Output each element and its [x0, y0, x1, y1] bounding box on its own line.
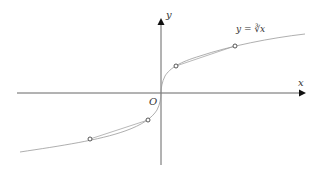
- curve-label: y = ∛x: [235, 23, 265, 34]
- origin-label: O: [149, 96, 157, 107]
- secant-segment-lower: [90, 120, 148, 139]
- marked-point: [174, 64, 178, 68]
- y-axis-label: y: [165, 9, 172, 20]
- cube-root-graph: y x O y = ∛x: [0, 0, 323, 176]
- x-axis-arrow-icon: [299, 90, 306, 97]
- x-axis-label: x: [298, 77, 304, 88]
- marked-point: [88, 137, 92, 141]
- y-axis-arrow-icon: [158, 18, 165, 25]
- marked-point: [233, 44, 237, 48]
- secant-segment-upper: [176, 46, 235, 66]
- marked-point: [146, 118, 150, 122]
